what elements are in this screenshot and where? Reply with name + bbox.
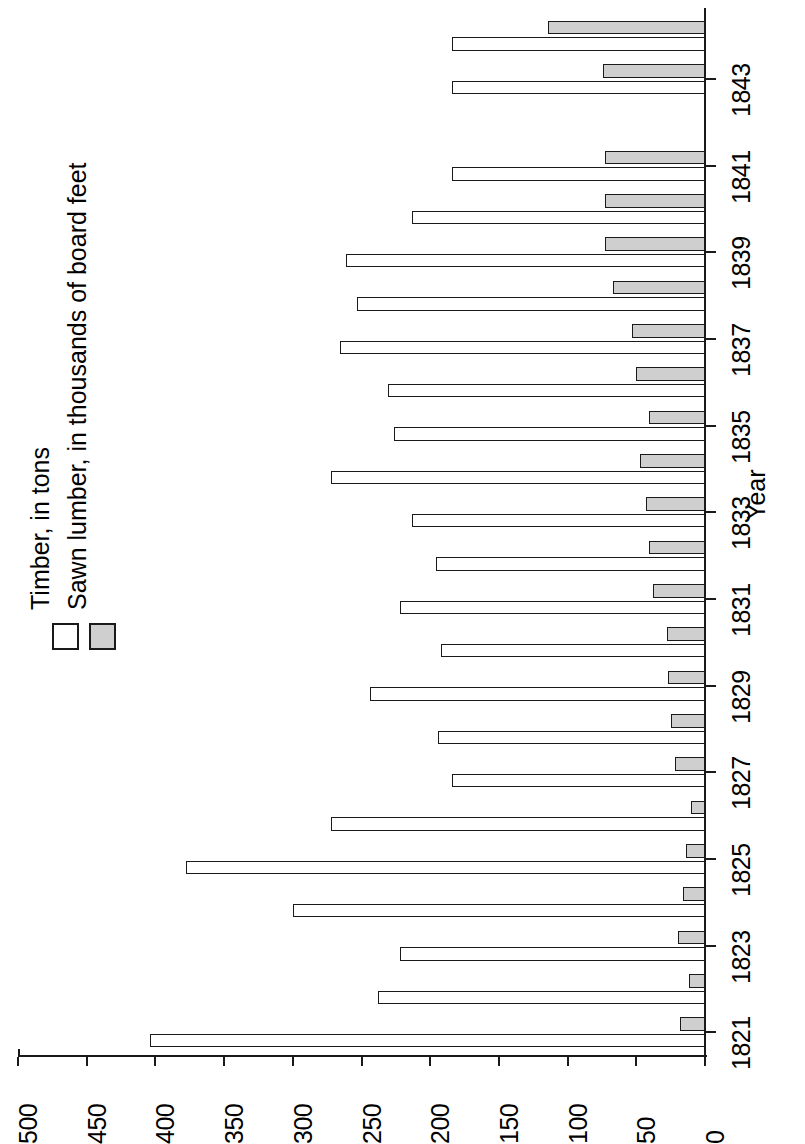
legend-item-label: Timber, in tons: [26, 447, 55, 610]
category-axis-tick: [705, 78, 716, 80]
value-axis-tick-label: 300: [289, 1074, 318, 1144]
value-axis-tick: [498, 1057, 500, 1066]
category-axis-tick: [705, 511, 716, 513]
value-axis-tick-label: 400: [151, 1074, 180, 1144]
value-axis-tick: [154, 1057, 156, 1066]
category-axis-tick: [705, 338, 716, 340]
category-axis-tick: [705, 598, 716, 600]
category-axis-label: 1829: [727, 670, 756, 724]
category-axis-label: 1843: [727, 63, 756, 117]
value-axis-tick-label: 150: [495, 1074, 524, 1144]
value-axis-tick: [223, 1057, 225, 1066]
category-axis-label: 1839: [727, 237, 756, 291]
value-axis-line: [18, 1055, 707, 1057]
category-axis-tick: [705, 251, 716, 253]
value-axis-tick: [86, 1057, 88, 1066]
category-axis-tick: [705, 165, 716, 167]
category-axis-label: 1821: [727, 1017, 756, 1071]
value-axis-tick: [635, 1057, 637, 1066]
value-axis-tick-label: 250: [358, 1074, 387, 1144]
category-axis-label: 1827: [727, 757, 756, 811]
chart-legend: Timber, in tons Sawn lumber, in thousand…: [52, 180, 182, 650]
value-axis-tick: [17, 1057, 19, 1066]
value-axis-tick-label: 0: [701, 1074, 730, 1144]
gray-square-swatch: [89, 623, 116, 650]
category-axis-tick: [705, 945, 716, 947]
value-axis-tick-label: 450: [83, 1074, 112, 1144]
value-axis-tick-label: 100: [564, 1074, 593, 1144]
category-axis-label: 1841: [727, 150, 756, 204]
bar-sawn-lumber: [548, 21, 705, 35]
category-axis-tick: [705, 425, 716, 427]
legend-item-label: Sawn lumber, in thousands of board feet: [63, 162, 92, 610]
value-axis-tick-label: 500: [14, 1074, 43, 1144]
value-axis-tick: [567, 1057, 569, 1066]
category-axis-tick: [705, 1031, 716, 1033]
category-axis-label: 1837: [727, 323, 756, 377]
value-axis-tick: [704, 1057, 706, 1066]
category-axis-tick: [705, 858, 716, 860]
value-axis-tick: [361, 1057, 363, 1066]
value-axis-tick-label: 200: [426, 1074, 455, 1144]
value-axis-tick: [292, 1057, 294, 1066]
category-axis-label: 1835: [727, 410, 756, 464]
white-square-swatch: [52, 623, 79, 650]
bar-timber: [452, 37, 705, 51]
value-axis-tick-label: 50: [632, 1074, 661, 1144]
category-axis-label: 1831: [727, 583, 756, 637]
category-axis-title: Year: [742, 469, 771, 520]
category-axis-tick: [705, 771, 716, 773]
value-axis-tick: [429, 1057, 431, 1066]
category-axis-tick: [705, 685, 716, 687]
value-axis-tick-label: 350: [220, 1074, 249, 1144]
category-axis-label: 1823: [727, 930, 756, 984]
category-axis-label: 1825: [727, 843, 756, 897]
